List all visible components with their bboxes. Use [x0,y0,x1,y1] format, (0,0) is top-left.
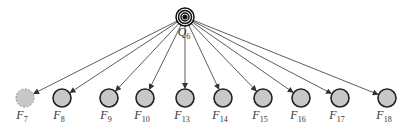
edge-q6-to-f18 [193,20,377,94]
label-f14: F14 [212,108,227,124]
node-f10 [136,89,154,107]
node-f17 [331,89,349,107]
label-f15: F15 [252,108,267,124]
node-f9 [100,89,118,107]
node-f8 [53,89,71,107]
node-f13 [176,89,194,107]
edge-q6-to-f17 [193,21,331,93]
node-f18 [378,89,396,107]
node-f14 [214,89,232,107]
edge-q6-to-f14 [189,25,219,89]
label-f9: F9 [100,108,111,124]
hub-node-q6 [176,8,194,26]
label-q6: Q6 [178,25,191,41]
edges [34,20,378,94]
label-f17: F17 [329,108,344,124]
edge-q6-to-f10 [149,25,181,89]
edge-q6-to-f16 [192,22,292,92]
edge-q6-to-f9 [116,24,179,91]
label-f7: F7 [16,108,27,124]
node-f7 [16,89,34,107]
node-f15 [254,89,272,107]
label-f8: F8 [53,108,64,124]
edge-q6-to-f15 [191,23,256,90]
label-f16: F16 [290,108,305,124]
label-f10: F10 [134,108,149,124]
label-f18: F18 [376,108,391,124]
nodes [16,89,396,107]
label-f13: F13 [174,108,189,124]
hub-ring-icon [183,15,187,19]
edge-q6-to-f7 [34,21,177,93]
node-f16 [292,89,310,107]
